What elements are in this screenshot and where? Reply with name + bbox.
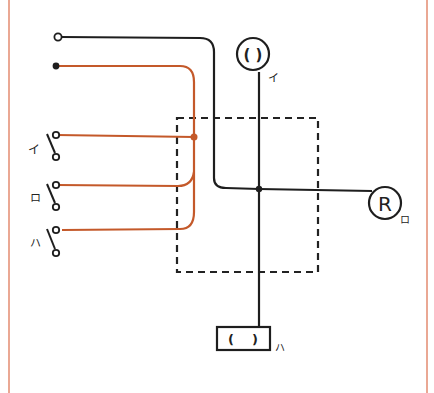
svg-text:R: R bbox=[378, 192, 392, 216]
receptacle-label: ロ bbox=[400, 214, 410, 225]
switch-label-ha: ハ bbox=[30, 237, 41, 250]
wiring-diagram: イ ロ ハ ( ) イ R ロ ( ) ハ bbox=[0, 0, 434, 393]
junction-box bbox=[177, 118, 318, 272]
svg-text:( ): ( ) bbox=[244, 46, 263, 64]
orange-wire-switch-i bbox=[57, 135, 194, 137]
receptacle-icon: R bbox=[369, 187, 401, 219]
orange-wire-switch-ro bbox=[57, 172, 194, 186]
switch-ha-icon bbox=[47, 227, 59, 256]
orange-wire-line bbox=[57, 66, 194, 230]
terminal-filled-icon bbox=[53, 63, 60, 70]
lamp-circle-label: イ bbox=[268, 72, 279, 85]
black-wire-neutral bbox=[61, 37, 372, 191]
lamp-circle-icon: ( ) bbox=[237, 38, 269, 70]
lamp-rect-label: ハ bbox=[275, 342, 285, 353]
terminal-open-icon bbox=[54, 33, 61, 40]
lamp-rect-icon: ( ) bbox=[217, 327, 270, 350]
switch-i-icon bbox=[47, 132, 59, 160]
switch-ro-icon bbox=[47, 182, 59, 210]
switch-label-i: イ bbox=[28, 143, 40, 157]
switch-label-ro: ロ bbox=[30, 192, 41, 205]
junction-dot-black bbox=[256, 186, 262, 192]
svg-text:( ): ( ) bbox=[228, 332, 258, 347]
junction-dot-orange bbox=[191, 134, 198, 141]
